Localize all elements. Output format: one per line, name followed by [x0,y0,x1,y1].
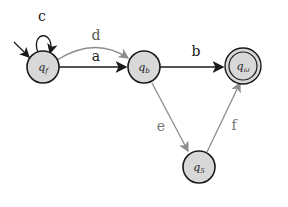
state-q5: q5 [183,151,215,183]
automaton-diagram: c d a b e f qf qb qω q5 [0,0,288,207]
edge-label-c: c [38,8,46,24]
edge-label-a: a [92,48,100,64]
state-qw-accepting: qω [225,48,261,84]
state-qf: qf [27,51,59,83]
edge-label-d: d [92,27,101,43]
edge-label-b: b [192,43,201,59]
edge-label-e: e [157,118,165,134]
edge-e [152,83,188,151]
initial-arrow [14,42,29,57]
state-qb: qb [128,51,160,83]
edge-label-f: f [231,117,238,133]
